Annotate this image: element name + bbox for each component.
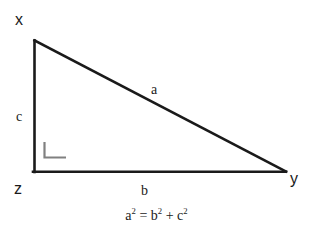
side-label-a: a — [151, 83, 157, 97]
pythagorean-formula: a2 = b2 + c2 — [0, 209, 313, 223]
side-label-b: b — [141, 184, 148, 198]
formula-plus: + — [162, 208, 177, 223]
vertex-label-x: x — [15, 12, 23, 28]
formula-rhs-second-exponent: 2 — [183, 206, 187, 216]
diagram-canvas: x z y a b c a2 = b2 + c2 — [0, 0, 313, 239]
vertex-label-y: y — [290, 171, 298, 187]
formula-rhs-first-base: b — [151, 208, 158, 223]
formula-equals: = — [136, 208, 151, 223]
right-angle-marker-icon — [45, 142, 67, 158]
side-label-c: c — [16, 110, 22, 124]
triangle-figure — [0, 0, 313, 239]
vertex-label-z: z — [14, 181, 22, 197]
triangle-side-a — [35, 41, 287, 172]
